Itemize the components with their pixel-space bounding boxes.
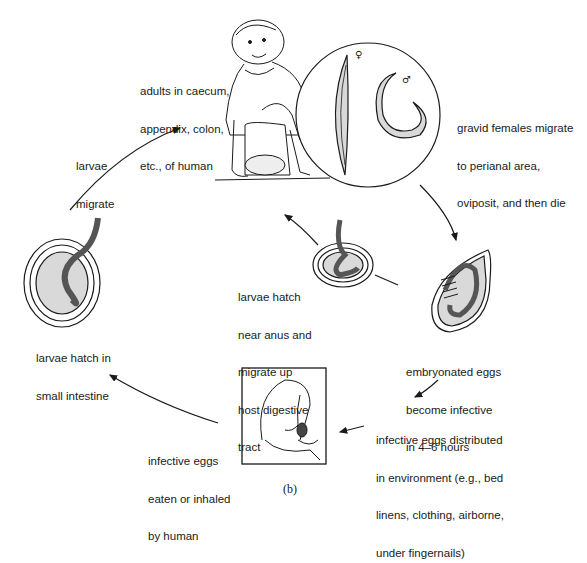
- label-larvae-hatch-intestine: larvae hatch in small intestine: [36, 327, 111, 415]
- arrow-to-woman: [340, 426, 364, 432]
- hatching-egg-anus: [313, 220, 373, 287]
- svg-text:♂: ♂: [402, 74, 411, 85]
- label-gravid-females: gravid females migrate to perianal area,…: [457, 97, 573, 222]
- adult-worms-magnified: ♀ ♂: [296, 43, 440, 187]
- arrow-hatch-anus: [285, 215, 318, 245]
- line-anus-egg: [375, 275, 398, 285]
- arrow-to-embryonated-eggs: [420, 185, 456, 240]
- label-larvae-hatch-anus: larvae hatch near anus and migrate up ho…: [238, 266, 312, 466]
- arrow-to-intestine: [110, 375, 218, 423]
- label-eggs-eaten: infective eggs eaten or inhaled by human: [148, 430, 230, 555]
- label-larvae-migrate: larvae migrate: [76, 135, 114, 223]
- label-eggs-distributed: infective eggs distributed in environmen…: [376, 409, 504, 563]
- svg-text:♀: ♀: [355, 49, 362, 60]
- figure-caption: (b): [283, 482, 297, 497]
- embryonated-egg: [432, 250, 491, 332]
- hatching-egg-intestine: [24, 218, 100, 327]
- label-adults: adults in caecum, appendix, colon, etc.,…: [140, 60, 230, 185]
